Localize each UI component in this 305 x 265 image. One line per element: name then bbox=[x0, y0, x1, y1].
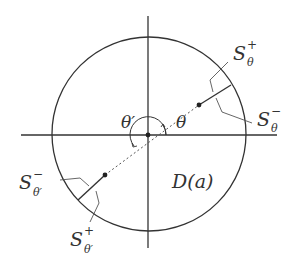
svg-text:−: − bbox=[271, 104, 281, 118]
svg-text:θ: θ bbox=[247, 56, 254, 69]
center-point bbox=[146, 133, 151, 138]
slit-theta-prime-tip bbox=[103, 173, 108, 178]
leader-s-theta-minus bbox=[216, 98, 252, 123]
svg-text:S: S bbox=[19, 171, 32, 193]
theta-label: θ bbox=[176, 112, 186, 132]
domain-label: D(a) bbox=[171, 170, 213, 192]
svg-text:+: + bbox=[84, 224, 94, 238]
leader-s-theta-prime-plus bbox=[90, 191, 99, 222]
svg-text:−: − bbox=[33, 167, 43, 181]
s-theta-prime-minus-label: S − θ′ bbox=[19, 167, 43, 199]
svg-text:S: S bbox=[257, 108, 270, 130]
theta-prime-label: θ′ bbox=[121, 112, 135, 132]
svg-text:θ′: θ′ bbox=[84, 243, 94, 256]
s-theta-plus-label: S + θ bbox=[233, 38, 257, 69]
slit-theta-tip bbox=[197, 103, 202, 108]
svg-text:θ′: θ′ bbox=[33, 186, 43, 199]
s-theta-minus-label: S − θ bbox=[257, 104, 281, 135]
slit-theta-prime bbox=[78, 175, 105, 200]
disk-diagram: θ′ θ D(a) S + θ S − θ S − θ′ S + θ′ bbox=[0, 0, 305, 265]
svg-text:θ: θ bbox=[271, 122, 278, 135]
s-theta-prime-plus-label: S + θ′ bbox=[70, 224, 94, 256]
svg-text:S: S bbox=[233, 42, 246, 64]
slit-theta bbox=[199, 85, 231, 105]
svg-text:+: + bbox=[247, 38, 257, 52]
svg-text:S: S bbox=[70, 228, 83, 250]
